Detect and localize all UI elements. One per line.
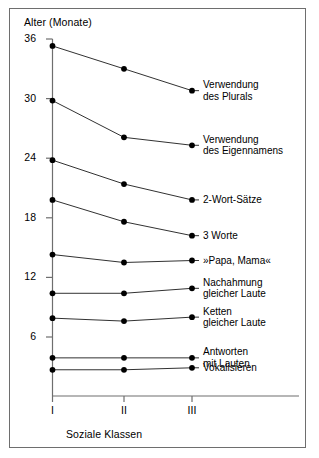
data-point-marker bbox=[121, 134, 127, 140]
series-label: Ketten gleicher Laute bbox=[203, 306, 266, 329]
data-point-marker bbox=[121, 260, 127, 266]
data-point-marker bbox=[50, 157, 56, 163]
data-point-marker bbox=[189, 314, 195, 320]
series-label: Vokalisieren bbox=[203, 362, 257, 374]
y-tick-label: 36 bbox=[14, 32, 36, 44]
axis-lines bbox=[53, 39, 300, 396]
data-point-marker bbox=[189, 258, 195, 264]
data-point-marker bbox=[121, 367, 127, 373]
series-points bbox=[50, 43, 195, 373]
data-point-marker bbox=[121, 181, 127, 187]
data-point-marker bbox=[121, 318, 127, 324]
data-point-marker bbox=[189, 88, 195, 94]
data-point-marker bbox=[189, 365, 195, 371]
data-point-marker bbox=[189, 355, 195, 361]
series-label: 3 Worte bbox=[203, 230, 238, 242]
data-point-marker bbox=[121, 290, 127, 296]
data-point-marker bbox=[50, 355, 56, 361]
data-point-marker bbox=[50, 290, 56, 296]
data-point-marker bbox=[189, 197, 195, 203]
series-label: Verwendung des Plurals bbox=[203, 79, 259, 102]
data-point-marker bbox=[50, 43, 56, 49]
data-point-marker bbox=[189, 285, 195, 291]
series-label: 2-Wort-Sätze bbox=[203, 194, 262, 206]
data-point-marker bbox=[50, 197, 56, 203]
y-tick-label: 18 bbox=[14, 211, 36, 223]
data-point-marker bbox=[50, 367, 56, 373]
figure-container: Alter (Monate) Soziale Klassen 363024181… bbox=[0, 0, 319, 458]
x-tick-label: II bbox=[114, 404, 134, 416]
data-point-marker bbox=[189, 142, 195, 148]
plot-area: Alter (Monate) Soziale Klassen 363024181… bbox=[0, 0, 319, 458]
data-point-marker bbox=[50, 252, 56, 258]
x-tick-label: I bbox=[43, 404, 63, 416]
y-tick-label: 30 bbox=[14, 92, 36, 104]
x-tick-label: III bbox=[182, 404, 202, 416]
data-point-marker bbox=[50, 315, 56, 321]
data-point-marker bbox=[121, 66, 127, 72]
series-line bbox=[53, 200, 193, 236]
data-point-marker bbox=[121, 219, 127, 225]
chart-canvas bbox=[0, 0, 319, 458]
y-tick-label: 6 bbox=[14, 330, 36, 342]
series-label: Nachahmung gleicher Laute bbox=[203, 277, 266, 300]
series-label: Verwendung des Eigennamens bbox=[203, 134, 283, 157]
y-tick-label: 24 bbox=[14, 151, 36, 163]
series-line bbox=[53, 160, 193, 200]
data-point-marker bbox=[189, 233, 195, 239]
x-axis-ticks bbox=[53, 396, 193, 402]
data-point-marker bbox=[121, 355, 127, 361]
y-tick-label: 12 bbox=[14, 270, 36, 282]
data-point-marker bbox=[50, 98, 56, 104]
series-label: »Papa, Mama« bbox=[203, 255, 271, 267]
